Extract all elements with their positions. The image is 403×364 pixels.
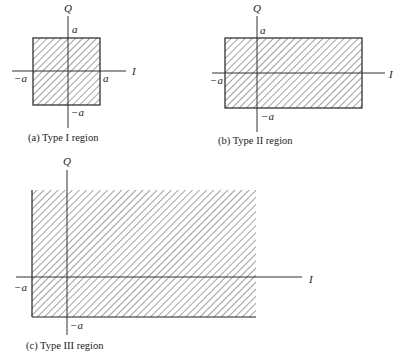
panel-c-type-3-region: Q I −a −a (c) Type III region — [14, 155, 314, 352]
q-axis-label: Q — [64, 2, 72, 14]
tick-label-left: −a — [210, 74, 223, 86]
i-axis-label: I — [131, 65, 137, 77]
q-axis-label: Q — [63, 155, 71, 167]
q-axis-label: Q — [253, 2, 261, 14]
panel-a-type-1-region: Q I a a −a −a (a) Type I region — [12, 2, 137, 144]
tick-label-left: −a — [14, 72, 27, 84]
tick-label-right: a — [103, 72, 109, 84]
tick-label-bottom: −a — [261, 110, 274, 122]
tick-label-bottom: −a — [70, 319, 83, 331]
i-axis-label: I — [308, 273, 314, 285]
tick-label-top: a — [260, 24, 266, 36]
tick-label-bottom: −a — [71, 106, 84, 118]
caption-b: (b) Type II region — [218, 135, 293, 147]
caption-a: (a) Type I region — [28, 132, 99, 144]
decision-regions-figure: Q I a a −a −a (a) Type I region Q I a −a… — [0, 0, 403, 364]
panel-b-type-2-region: Q I a −a −a (b) Type II region — [210, 2, 394, 147]
caption-c: (c) Type III region — [26, 340, 104, 352]
i-axis-label: I — [388, 68, 394, 80]
tick-label-top: a — [72, 23, 78, 35]
tick-label-left: −a — [14, 281, 27, 293]
hatched-quadrant-region — [32, 190, 256, 317]
